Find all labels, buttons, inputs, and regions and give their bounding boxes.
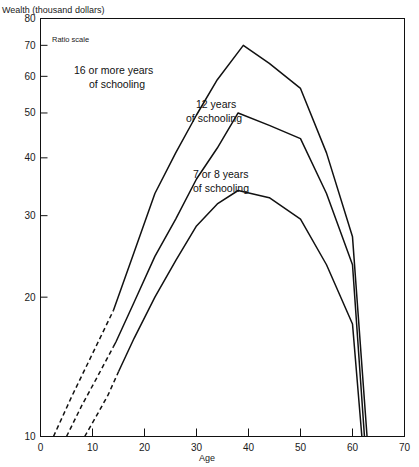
x-tick-label-70: 70 bbox=[399, 442, 411, 453]
curve-solid-1 bbox=[113, 113, 364, 437]
annotation-4: 7 or 8 years bbox=[193, 168, 248, 180]
x-axis-ticks: 010203040506070 bbox=[38, 429, 411, 453]
y-axis-ticks: 1020304050607080 bbox=[24, 13, 47, 442]
x-axis-title: Age bbox=[199, 453, 215, 463]
ratio-scale-note: Ratio scale bbox=[52, 35, 89, 44]
x-tick-label-50: 50 bbox=[295, 442, 307, 453]
annotation-3: of schooling bbox=[186, 112, 242, 124]
curve-annotations: 16 or more yearsof schooling12 yearsof s… bbox=[74, 64, 249, 194]
curve-solid-0 bbox=[113, 45, 367, 436]
x-tick-label-0: 0 bbox=[38, 442, 44, 453]
x-tick-label-60: 60 bbox=[347, 442, 359, 453]
curve-dashed-0 bbox=[54, 311, 114, 437]
y-tick-label-50: 50 bbox=[24, 107, 36, 118]
annotation-5: of schooling bbox=[193, 182, 249, 194]
x-tick-label-10: 10 bbox=[87, 442, 99, 453]
wealth-by-age-line-chart: Wealth (thousand dollars) Ratio scale 10… bbox=[0, 0, 419, 467]
y-tick-label-80: 80 bbox=[24, 13, 36, 24]
chart-figure: Wealth (thousand dollars) Ratio scale 10… bbox=[0, 0, 419, 467]
y-tick-label-20: 20 bbox=[24, 292, 36, 303]
y-tick-label-40: 40 bbox=[24, 152, 36, 163]
annotation-1: of schooling bbox=[89, 78, 145, 90]
y-axis-title: Wealth (thousand dollars) bbox=[2, 5, 104, 15]
x-tick-label-30: 30 bbox=[191, 442, 203, 453]
curve-dashed-2 bbox=[85, 372, 119, 437]
annotation-2: 12 years bbox=[196, 98, 236, 110]
y-tick-label-10: 10 bbox=[24, 431, 36, 442]
y-tick-label-30: 30 bbox=[24, 210, 36, 221]
curve-solid-2 bbox=[119, 191, 362, 437]
x-tick-label-20: 20 bbox=[139, 442, 151, 453]
y-tick-label-60: 60 bbox=[24, 71, 36, 82]
annotation-0: 16 or more years bbox=[74, 64, 153, 76]
x-tick-label-40: 40 bbox=[243, 442, 255, 453]
y-tick-label-70: 70 bbox=[24, 40, 36, 51]
